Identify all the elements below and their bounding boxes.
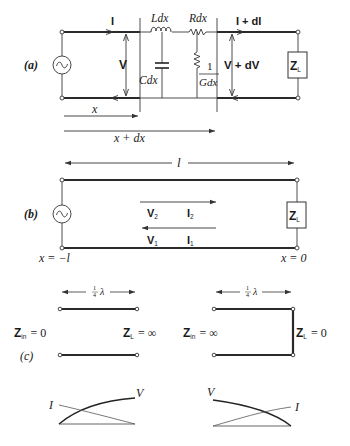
voltage-curve (59, 398, 135, 424)
voltage-label-v-dv: V + dV (224, 59, 260, 71)
resistor-series-icon (189, 29, 206, 35)
standing-wave-right: V I (207, 385, 300, 426)
conductance-numerator: 1 (207, 60, 213, 72)
length-label: l (177, 155, 181, 170)
capacitor-label: Cdx (139, 74, 158, 86)
voltage-label: V (207, 385, 216, 399)
current-label: I (48, 398, 54, 412)
capacitor-icon (155, 63, 169, 68)
voltage-label-v: V (119, 58, 127, 72)
terminal (296, 30, 300, 34)
load-impedance-label: ZL= ∞ (123, 326, 156, 340)
current-label-i-di: I + dI (236, 15, 261, 27)
svg-text:4: 4 (246, 292, 249, 298)
svg-text:4: 4 (93, 292, 96, 298)
forward-current-label: I2 (187, 207, 194, 220)
quarter-wavelength-label: 1 4 λ (245, 285, 258, 298)
resistor-shunt-icon (194, 52, 200, 68)
current-curve (59, 405, 135, 424)
input-impedance-label: Zin= ∞ (183, 326, 218, 340)
load-impedance-label: ZL= 0 (296, 326, 327, 340)
svg-text:λ: λ (252, 286, 258, 297)
panel-c-label: (c) (20, 349, 33, 363)
terminal (60, 96, 64, 100)
reflected-current-label: I1 (187, 234, 194, 247)
position-label-x: x (91, 102, 98, 116)
short-circuit-stub: 1 4 λ Zin= ∞ ZL= 0 (183, 285, 327, 357)
transmission-line-figure: (a) I V (0, 0, 350, 446)
reflected-voltage-label: V1 (147, 234, 158, 247)
panel-b: (b) l ZL V2 I2 V1 I1 x = −l x = (24, 155, 306, 265)
inductor-icon (151, 27, 171, 32)
open-circuit-stub: 1 4 λ Zin= 0 ZL= ∞ (14, 285, 156, 357)
svg-text:λ: λ (99, 286, 105, 297)
current-label: I (294, 400, 300, 414)
panel-a: (a) I V (24, 12, 307, 145)
forward-voltage-label: V2 (147, 207, 158, 220)
panel-a-label: (a) (24, 58, 38, 72)
panel-c: (c) 1 4 λ Zin= 0 ZL= ∞ 1 (14, 285, 327, 363)
terminal (296, 96, 300, 100)
inductor-label: Ldx (150, 12, 169, 24)
input-impedance-label: Zin= 0 (14, 326, 46, 340)
current-label-i: I (111, 15, 114, 27)
current-curve (213, 407, 291, 426)
voltage-label: V (136, 386, 145, 400)
ac-source-icon (53, 56, 71, 74)
resistor-label: Rdx (188, 12, 208, 24)
terminal (60, 30, 64, 34)
ac-source-icon (53, 205, 71, 223)
conductance-denominator: Gdx (199, 76, 217, 88)
position-label-x-dx: x + dx (113, 131, 145, 145)
panel-b-label: (b) (24, 207, 38, 221)
position-left-label: x = −l (38, 251, 71, 265)
svg-text:1: 1 (93, 285, 96, 291)
svg-text:1: 1 (246, 285, 249, 291)
voltage-curve (213, 400, 291, 426)
standing-wave-left: I V (48, 386, 145, 424)
position-right-label: x = 0 (280, 251, 306, 265)
quarter-wavelength-label: 1 4 λ (92, 285, 105, 298)
